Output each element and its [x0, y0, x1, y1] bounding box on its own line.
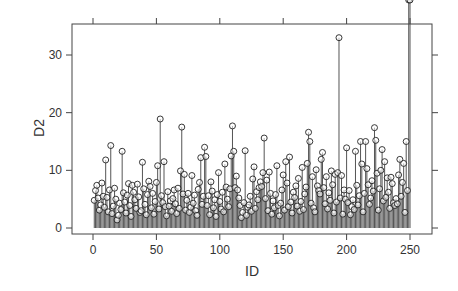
data-point [304, 160, 310, 166]
data-point [368, 195, 374, 201]
data-point [157, 116, 163, 122]
data-point [323, 174, 329, 180]
data-point [306, 129, 312, 135]
data-point [385, 189, 391, 195]
data-point [119, 148, 125, 154]
data-point [298, 198, 304, 204]
data-point [307, 139, 313, 145]
data-point [364, 166, 370, 172]
data-point [222, 161, 228, 167]
data-point [266, 169, 272, 175]
data-point [131, 189, 137, 195]
data-point [148, 205, 154, 211]
data-point [373, 137, 379, 143]
data-point [260, 170, 266, 176]
data-point [289, 210, 295, 216]
data-point [259, 183, 265, 189]
data-point [346, 188, 352, 194]
data-point [347, 212, 353, 218]
data-point [138, 208, 144, 214]
data-point [363, 139, 369, 145]
data-point [293, 183, 299, 189]
data-point [299, 164, 305, 170]
data-point [300, 207, 306, 213]
data-point [110, 203, 116, 209]
data-point [279, 187, 285, 193]
data-point [274, 163, 280, 169]
data-point [326, 190, 332, 196]
x-tick-label: 200 [337, 243, 357, 257]
data-point [224, 196, 230, 202]
y-tick-label: 0 [55, 221, 62, 235]
data-point [292, 194, 298, 200]
data-point [115, 212, 121, 218]
data-point [242, 148, 248, 154]
data-point [153, 179, 159, 185]
data-point [284, 180, 290, 186]
data-point-markers [91, 0, 413, 223]
data-point [179, 124, 185, 130]
data-point [109, 211, 115, 217]
data-point [317, 191, 323, 197]
data-point [195, 186, 201, 192]
data-point [302, 191, 308, 197]
data-point [175, 185, 181, 191]
data-point [262, 196, 268, 202]
data-point [190, 200, 196, 206]
data-point [246, 202, 252, 208]
data-point [399, 179, 405, 185]
data-point [339, 173, 345, 179]
data-point [104, 194, 110, 200]
data-point [366, 201, 372, 207]
data-point [243, 212, 249, 218]
data-point [191, 192, 197, 198]
x-tick-label: 0 [90, 243, 97, 257]
data-point [210, 205, 216, 211]
data-point [142, 201, 148, 207]
data-point [156, 206, 162, 212]
data-point [143, 212, 149, 218]
data-point [287, 154, 293, 160]
data-point [176, 205, 182, 211]
data-point [280, 172, 286, 178]
y-tick-label: 30 [49, 48, 63, 62]
data-point [377, 186, 383, 192]
data-point [185, 190, 191, 196]
data-point [340, 211, 346, 217]
data-point [309, 174, 315, 180]
y-axis-title: D2 [31, 119, 47, 137]
data-point [165, 189, 171, 195]
data-point [202, 144, 208, 150]
data-point [231, 148, 237, 154]
data-point [164, 213, 170, 219]
data-point [336, 35, 342, 41]
data-point [181, 171, 187, 177]
data-point [261, 135, 267, 141]
data-point [361, 190, 367, 196]
data-point [128, 213, 134, 219]
data-point [233, 173, 239, 179]
data-point [402, 209, 408, 215]
data-point [194, 212, 200, 218]
data-point [327, 197, 333, 203]
data-point [269, 211, 275, 217]
data-point [270, 198, 276, 204]
data-point [320, 149, 326, 155]
data-point [208, 179, 214, 185]
data-point [134, 181, 140, 187]
data-point [321, 185, 327, 191]
data-point [152, 198, 158, 204]
data-point [354, 182, 360, 188]
data-point [264, 177, 270, 183]
x-tick-label: 250 [400, 243, 420, 257]
needle-chart: 050100150200250 0102030 ID D2 [0, 0, 458, 291]
data-point [184, 197, 190, 203]
data-point [99, 180, 105, 186]
data-point [203, 153, 209, 159]
data-point [112, 185, 118, 191]
data-point [394, 201, 400, 207]
data-point [303, 184, 309, 190]
y-tick-label: 20 [49, 106, 63, 120]
data-point [226, 204, 232, 210]
data-point [278, 200, 284, 206]
